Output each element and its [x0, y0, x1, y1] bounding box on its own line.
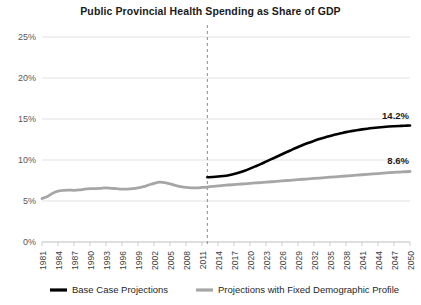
x-axis-tick-labels: 1981198419871990199319961999200220052008…	[38, 242, 416, 270]
x-axis-tick-label: 1990	[86, 251, 96, 270]
legend-label: Base Case Projections	[72, 284, 168, 295]
x-axis-tick-label: 2029	[294, 251, 304, 270]
x-axis-tick-label: 2011	[198, 251, 208, 270]
data-labels: 14.2%8.6%	[382, 110, 409, 167]
x-axis-tick-label: 2044	[374, 251, 384, 270]
x-axis-tick-label: 1984	[54, 251, 64, 270]
x-axis-tick-label: 1981	[38, 251, 48, 270]
x-axis-tick-label: 2014	[214, 251, 224, 270]
x-axis-tick-label: 2020	[246, 251, 256, 270]
x-axis-tick-label: 1999	[134, 251, 144, 270]
x-axis-tick-label: 2038	[342, 251, 352, 270]
x-axis-tick-label: 2017	[230, 251, 240, 270]
x-axis-tick-label: 2023	[262, 251, 272, 270]
x-axis-tick-label: 2050	[406, 251, 416, 270]
x-axis-tick-label: 2008	[182, 251, 192, 270]
y-axis-tick-label: 0%	[23, 237, 36, 247]
series-end-label: 8.6%	[387, 155, 409, 166]
x-axis-tick-label: 1993	[102, 251, 112, 270]
y-axis-tick-label: 10%	[18, 155, 36, 165]
y-axis-tick-labels: 25%20%15%10%5%0%	[18, 32, 36, 247]
chart-legend: Base Case ProjectionsProjections with Fi…	[50, 284, 399, 295]
y-axis-tick-label: 15%	[18, 114, 36, 124]
y-axis-tick-label: 25%	[18, 32, 36, 42]
data-series	[42, 126, 410, 199]
x-axis-tick-label: 1987	[70, 251, 80, 270]
series-line	[207, 126, 410, 178]
x-axis-tick-label: 2047	[390, 251, 400, 270]
x-axis-tick-label: 2026	[278, 251, 288, 270]
series-end-label: 14.2%	[382, 110, 409, 121]
x-axis-tick-label: 2032	[310, 251, 320, 270]
legend-label: Projections with Fixed Demographic Profi…	[218, 284, 399, 295]
x-axis-tick-label: 2002	[150, 251, 160, 270]
x-axis-tick-label: 1996	[118, 251, 128, 270]
chart-container: Public Provincial Health Spending as Sha…	[0, 0, 421, 305]
x-axis-tick-label: 2035	[326, 251, 336, 270]
gridlines	[42, 37, 410, 242]
y-axis-tick-label: 5%	[23, 196, 36, 206]
chart-plot: 25%20%15%10%5%0% 19811984198719901993199…	[0, 0, 421, 305]
x-axis-tick-label: 2041	[358, 251, 368, 270]
y-axis-tick-label: 20%	[18, 73, 36, 83]
x-axis-tick-label: 2005	[166, 251, 176, 270]
